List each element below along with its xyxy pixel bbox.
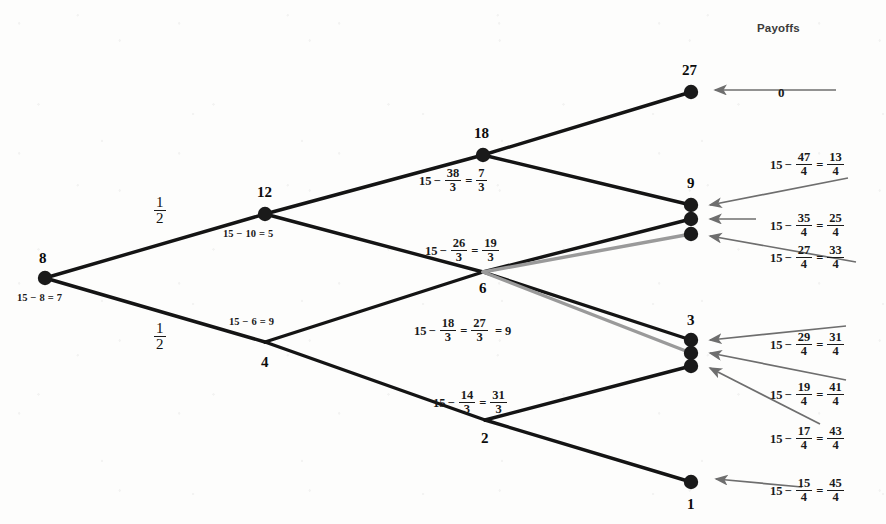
equation-term: − [242, 316, 250, 327]
fraction: 454 [827, 477, 844, 504]
tree-edges [45, 92, 691, 482]
payoff-equation: 15−354=254 [770, 213, 846, 240]
fraction-denominator: 3 [445, 180, 462, 194]
equation-operator: − [784, 388, 793, 403]
payoff-arrow [710, 178, 848, 205]
tree-edge [483, 272, 691, 340]
fraction-denominator: 4 [796, 438, 813, 452]
tree-node-dot[interactable] [476, 148, 490, 162]
fraction-numerator: 43 [827, 425, 844, 438]
fraction-numerator: 45 [827, 477, 844, 490]
fraction-numerator: 27 [796, 244, 813, 257]
node-value-label: 3 [687, 312, 695, 329]
diagram-canvas: 8124186227931121215−8=715−10=515−6=915−3… [0, 0, 886, 524]
equation-operator: − [439, 244, 448, 259]
equation-operator: = [478, 396, 487, 411]
equation-term: 15 [770, 432, 783, 447]
node-value-label: 27 [682, 62, 697, 79]
tree-node-dot[interactable] [258, 207, 272, 221]
fraction-numerator: 31 [827, 331, 844, 344]
probability-label: 12 [152, 196, 168, 228]
fraction-denominator: 2 [154, 336, 166, 352]
equation-term: 15 [228, 316, 241, 327]
tree-node-dot[interactable] [684, 333, 698, 347]
fraction: 334 [827, 244, 844, 271]
fraction-numerator: 15 [796, 477, 813, 490]
fraction-denominator: 4 [827, 257, 844, 271]
fraction-numerator: 1 [154, 321, 166, 336]
fraction-denominator: 3 [482, 250, 499, 264]
tree-node-dot[interactable] [684, 227, 698, 241]
fraction-denominator: 3 [471, 330, 488, 344]
equation-term: = [258, 228, 266, 239]
equation-term: 15 [770, 388, 783, 403]
edge-equation: 15−383=73 [419, 168, 489, 195]
fraction-numerator: 25 [827, 212, 844, 225]
node-value-label: 8 [39, 250, 47, 267]
fraction-denominator: 4 [796, 257, 813, 271]
tree-node-dot[interactable] [684, 198, 698, 212]
equation-term: 10 [244, 228, 257, 239]
fraction-numerator: 29 [796, 331, 813, 344]
node-value-label: 12 [257, 184, 272, 201]
equation-term: 15 [770, 338, 783, 353]
equation-operator: − [428, 324, 437, 339]
fraction-denominator: 4 [796, 394, 813, 408]
probability-label: 12 [152, 322, 168, 354]
fraction-numerator: 35 [796, 212, 813, 225]
equation-operator: = [815, 388, 824, 403]
equation-term: 7 [56, 292, 63, 303]
fraction-numerator: 1 [154, 195, 166, 210]
tree-node-dot[interactable] [684, 346, 698, 360]
fraction: 314 [827, 331, 844, 358]
equation-operator: = [815, 251, 824, 266]
fraction-denominator: 4 [827, 394, 844, 408]
fraction: 383 [445, 167, 462, 194]
fraction: 313 [490, 389, 507, 416]
fraction: 154 [796, 477, 813, 504]
payoff-equation: 15−274=334 [770, 245, 846, 272]
tree-node-dot[interactable] [684, 212, 698, 226]
equation-term: − [30, 292, 38, 303]
fraction-numerator: 7 [476, 167, 486, 180]
fraction-numerator: 41 [827, 381, 844, 394]
equation-term: 8 [38, 292, 45, 303]
fraction-denominator: 4 [796, 164, 813, 178]
equation-operator: = [470, 244, 479, 259]
payoff-equation: 15−294=314 [770, 332, 846, 359]
fraction-denominator: 3 [440, 330, 457, 344]
fraction: 474 [796, 151, 813, 178]
fraction-numerator: 13 [827, 151, 844, 164]
tree-node-dot[interactable] [684, 359, 698, 373]
equation-operator: − [784, 338, 793, 353]
equation-term: 15 [433, 396, 446, 411]
fraction: 434 [827, 425, 844, 452]
equation-operator: = [815, 432, 824, 447]
node-value-label: 4 [261, 354, 269, 371]
tree-edge [483, 92, 691, 155]
node-value-label: 1 [687, 496, 695, 513]
fraction: 414 [827, 381, 844, 408]
equation-tail: = 9 [491, 324, 513, 339]
equation-term: = [259, 316, 267, 327]
edge-equation: 15−143=313 [433, 390, 509, 417]
edge-equation: 15−10=5 [222, 228, 274, 239]
edge-equation: 15−6=9 [228, 316, 275, 327]
edge-equation: 15−183=273 = 9 [414, 318, 512, 345]
fraction-numerator: 33 [827, 244, 844, 257]
tree-node-dot[interactable] [684, 475, 698, 489]
tree-edge [483, 219, 691, 272]
payoff-equation: 15−474=134 [770, 152, 846, 179]
fraction: 274 [796, 244, 813, 271]
equation-operator: − [784, 219, 793, 234]
tree-node-dot[interactable] [38, 271, 52, 285]
fraction-numerator: 14 [459, 389, 476, 402]
tree-edge [485, 420, 691, 482]
fraction: 263 [451, 237, 468, 264]
node-value-label: 18 [474, 125, 489, 142]
payoff-equation: 0 [778, 85, 785, 101]
fraction: 12 [154, 195, 166, 227]
tree-node-dot[interactable] [684, 85, 698, 99]
fraction-numerator: 26 [451, 237, 468, 250]
fraction-numerator: 27 [471, 317, 488, 330]
